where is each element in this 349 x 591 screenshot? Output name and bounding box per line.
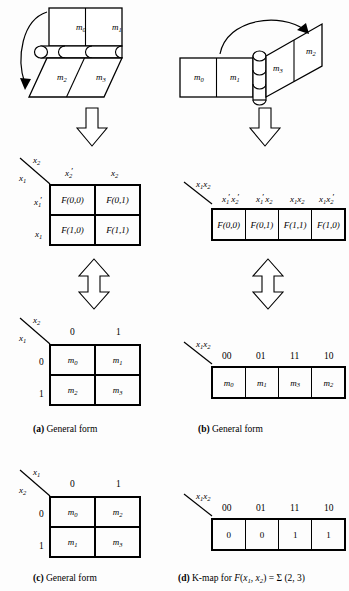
panel-a-bottom-col-header-1: 1 bbox=[116, 328, 121, 338]
panel-b-bottom-cell-00: m0 bbox=[212, 367, 246, 399]
panel-b-top-cell-00: F(0,0) bbox=[212, 209, 246, 241]
panel-b-bottom-corner-var: x1x2 bbox=[196, 340, 211, 349]
panel-a-bottom-cell-01: m1 bbox=[95, 345, 141, 376]
caption-d-tag: (d) bbox=[178, 573, 190, 583]
fold-b-label-m0: m0 bbox=[194, 73, 204, 82]
hollow-double-arrow-b bbox=[250, 258, 286, 312]
caption-d: (d) K-map for F(x1, x2) = Σ (2, 3) bbox=[178, 573, 305, 583]
caption-a-tag: (a) bbox=[33, 424, 44, 434]
hollow-down-arrow-b bbox=[248, 108, 282, 148]
panel-b-bottom-col-header-3: 10 bbox=[324, 352, 334, 362]
panel-b-bottom-col-header-0: 00 bbox=[222, 352, 232, 362]
panel-d-col-header-1: 01 bbox=[256, 504, 266, 514]
panel-d-col-header-0: 00 bbox=[222, 504, 232, 514]
panel-a-top-cell-00: F(0,0) bbox=[50, 185, 96, 216]
caption-b: (b) General form bbox=[198, 424, 263, 434]
panel-b-bottom-kmap-grid: m0 m1 m3 m2 bbox=[211, 366, 346, 399]
fold-a-label-m2: m2 bbox=[57, 73, 67, 82]
panel-d-cell-01: 0 bbox=[245, 519, 279, 551]
panel-a-top-col-header-0: x2′ bbox=[65, 169, 74, 178]
fold-b-label-m3: m3 bbox=[273, 64, 283, 73]
panel-c-cell-11: m3 bbox=[95, 527, 141, 558]
panel-c-cell-00: m0 bbox=[50, 497, 96, 528]
panel-a-bottom-row-header-0: 0 bbox=[39, 358, 44, 368]
panel-a-bottom-row-header-1: 1 bbox=[39, 390, 44, 400]
figure-root: m0 m1 m2 m3 m0 m1 m3 m2 x2 x1 x2′ x2 x1′… bbox=[0, 0, 349, 591]
panel-b-bottom-cell-01: m1 bbox=[245, 367, 279, 399]
panel-b-top-col-header-1: x1′x2 bbox=[256, 195, 272, 204]
panel-c-cell-01: m2 bbox=[95, 497, 141, 528]
panel-b-bottom-col-header-2: 11 bbox=[290, 352, 299, 362]
caption-d-function: F bbox=[234, 573, 240, 583]
panel-a-top-cell-10: F(1,0) bbox=[50, 215, 96, 246]
caption-c: (c) General form bbox=[33, 573, 97, 583]
panel-b-bottom-col-header-1: 01 bbox=[256, 352, 266, 362]
panel-d-corner-var: x1x2 bbox=[196, 492, 211, 501]
panel-b-top-cell-10: F(1,0) bbox=[311, 209, 345, 241]
panel-a-top-cell-11: F(1,1) bbox=[95, 215, 141, 246]
panel-b-top-col-header-0: x1′x2′ bbox=[222, 195, 240, 204]
panel-a-bottom-cell-10: m2 bbox=[50, 375, 96, 406]
fold-b-label-m1: m1 bbox=[230, 73, 240, 82]
panel-d-cell-10: 1 bbox=[311, 519, 345, 551]
panel-c-row-header-0: 0 bbox=[39, 510, 44, 520]
panel-a-bottom-cell-11: m3 bbox=[95, 375, 141, 406]
panel-b-top-col-header-3: x1x2′ bbox=[319, 195, 335, 204]
panel-a-bottom-corner-row-var: x1 bbox=[19, 334, 26, 343]
panel-b-top-col-header-2: x1x2 bbox=[290, 195, 305, 204]
hollow-down-arrow-a bbox=[75, 108, 109, 148]
panel-c-col-header-0: 0 bbox=[70, 480, 75, 490]
fold-a-label-m3: m3 bbox=[96, 73, 106, 82]
panel-d-cell-00: 0 bbox=[212, 519, 246, 551]
panel-c-kmap-grid: m0 m2 m1 m3 bbox=[49, 496, 141, 558]
panel-c-row-header-1: 1 bbox=[39, 542, 44, 552]
panel-a-bottom-cell-00: m0 bbox=[50, 345, 96, 376]
panel-a-top-col-header-1: x2 bbox=[111, 169, 118, 178]
panel-d-cell-11: 1 bbox=[278, 519, 312, 551]
panel-c-cell-10: m1 bbox=[50, 527, 96, 558]
vertical-fold-diagram bbox=[175, 0, 349, 110]
panel-a-top-corner-col-var: x2 bbox=[33, 156, 40, 165]
panel-c-corner-row-var: x2 bbox=[19, 486, 26, 495]
panel-d-col-header-3: 10 bbox=[324, 504, 334, 514]
panel-b-bottom-cell-10: m2 bbox=[311, 367, 345, 399]
panel-b-top-cell-11: F(1,1) bbox=[278, 209, 312, 241]
panel-a-bottom-col-header-0: 0 bbox=[70, 328, 75, 338]
fold-a-label-m0: m0 bbox=[76, 23, 86, 32]
panel-a-top-cell-01: F(0,1) bbox=[95, 185, 141, 216]
caption-c-text: General form bbox=[44, 573, 97, 583]
panel-b-top-cell-01: F(0,1) bbox=[245, 209, 279, 241]
panel-d-kmap-grid: 0 0 1 1 bbox=[211, 518, 346, 551]
panel-a-bottom-corner-col-var: x2 bbox=[33, 316, 40, 325]
panel-b-bottom-cell-11: m3 bbox=[278, 367, 312, 399]
horizontal-fold-diagram bbox=[0, 0, 175, 110]
panel-a-top-corner-row-var: x1 bbox=[19, 174, 26, 183]
panel-a-top-row-header-1: x1 bbox=[35, 230, 42, 239]
caption-c-tag: (c) bbox=[33, 573, 44, 583]
fold-a-label-m1: m1 bbox=[112, 23, 122, 32]
panel-a-top-kmap-grid: F(0,0) F(0,1) F(1,0) F(1,1) bbox=[49, 184, 141, 246]
panel-c-col-header-1: 1 bbox=[116, 480, 121, 490]
caption-a-text: General form bbox=[44, 424, 97, 434]
panel-a-bottom-kmap-grid: m0 m1 m2 m3 bbox=[49, 344, 141, 406]
caption-a: (a) General form bbox=[33, 424, 97, 434]
caption-b-text: General form bbox=[210, 424, 263, 434]
panel-d-col-header-2: 11 bbox=[290, 504, 299, 514]
hollow-double-arrow-a bbox=[76, 258, 112, 312]
caption-b-tag: (b) bbox=[198, 424, 210, 434]
panel-b-top-corner-var: x1x2 bbox=[196, 180, 211, 189]
fold-b-label-m2: m2 bbox=[306, 47, 316, 56]
caption-d-text: K-map for bbox=[190, 573, 235, 583]
panel-a-top-row-header-0: x1′ bbox=[34, 198, 43, 207]
panel-c-corner-col-var: x1 bbox=[33, 468, 40, 477]
panel-b-top-kmap-grid: F(0,0) F(0,1) F(1,1) F(1,0) bbox=[211, 208, 346, 241]
